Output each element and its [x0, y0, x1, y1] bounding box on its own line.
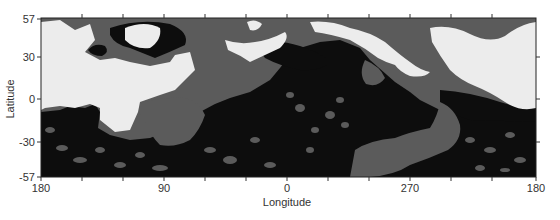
y-tick-label: -57: [19, 171, 35, 183]
y-tick-label: 30: [23, 51, 35, 63]
y-axis-title: Latitude: [4, 79, 16, 118]
x-tick-label: 90: [158, 182, 170, 194]
x-axis-title: Longitude: [263, 196, 311, 208]
y-tick-label: 57: [23, 13, 35, 25]
x-tick-label: 0: [284, 182, 290, 194]
y-tick-label: 0: [29, 93, 35, 105]
map-figure: 180 90 0 270 180 57 30 0 -30 -57 Longitu…: [0, 0, 560, 220]
x-tick-label: 180: [32, 182, 50, 194]
map-plot-area: [41, 18, 536, 177]
y-tick-label: -30: [19, 136, 35, 148]
x-tick-label: 180: [527, 182, 545, 194]
x-tick-label: 270: [401, 182, 419, 194]
